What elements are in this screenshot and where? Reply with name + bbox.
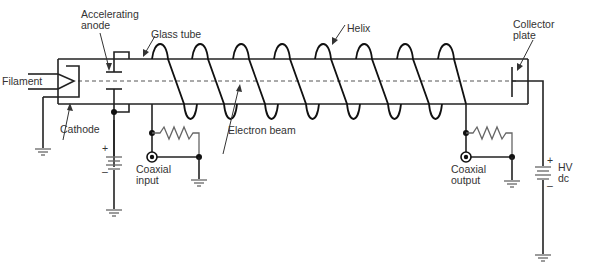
electron-beam-label: Electron beam: [228, 124, 296, 136]
helix-label: Helix: [347, 22, 371, 34]
ground-icon: [504, 181, 520, 187]
ground-icon: [535, 255, 551, 261]
coaxial-output-connector-icon[interactable]: [461, 152, 471, 162]
coaxial-input-label-2: input: [136, 174, 159, 186]
ground-icon: [35, 149, 51, 155]
accelerating-anode-label-2: anode: [81, 19, 110, 31]
traveling-wave-tube-diagram: + –: [0, 0, 589, 277]
filament-label: Filament: [2, 75, 42, 87]
plus-label-left: +: [102, 142, 108, 154]
coaxial-output-label-2: output: [451, 174, 480, 186]
glass-tube-label: Glass tube: [151, 28, 201, 40]
battery-left-icon: [106, 120, 122, 209]
coaxial-input-connector-icon[interactable]: [147, 152, 157, 162]
minus-label-left: –: [102, 165, 108, 177]
ground-icon: [106, 210, 122, 216]
minus-label-right: –: [547, 179, 553, 191]
cathode-icon: [43, 66, 79, 148]
hv-dc-label-2: dc: [558, 172, 569, 184]
ground-icon: [191, 180, 207, 186]
cathode-label: Cathode: [60, 123, 100, 135]
collector-plate-label-2: plate: [513, 29, 536, 41]
plus-label-right: +: [547, 154, 553, 166]
